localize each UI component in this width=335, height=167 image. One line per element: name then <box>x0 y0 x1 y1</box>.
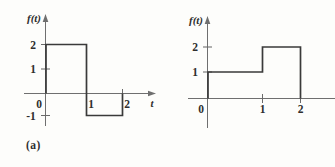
figure-page: 2 1 -1 0 1 2 f(t) t (a) <box>0 0 335 167</box>
y-tick-label-2-a: 2 <box>30 39 36 51</box>
x-axis-arrow-a <box>148 91 156 96</box>
y-axis-arrow-b <box>205 16 211 24</box>
y-tick-label-2-b: 2 <box>192 41 198 53</box>
caption-a: (a) <box>26 139 41 151</box>
x-tick-label-1-b: 1 <box>260 103 266 115</box>
waveform-b <box>208 47 301 99</box>
x-tick-label-0-a: 0 <box>36 98 42 110</box>
chart-panel-b: 2 1 0 1 2 f(t) (b) <box>172 0 335 167</box>
x-axis-label-a: t <box>150 97 154 109</box>
y-axis-label-b: f(t) <box>189 14 203 27</box>
plot-b: 2 1 0 1 2 f(t) <box>172 0 335 167</box>
x-tick-label-2-a: 2 <box>124 98 130 110</box>
chart-panel-a: 2 1 -1 0 1 2 f(t) t (a) <box>0 0 172 167</box>
y-tick-label-1-b: 1 <box>192 66 198 78</box>
y-tick-label-1-a: 1 <box>30 63 36 75</box>
x-tick-label-0-b: 0 <box>198 103 204 115</box>
y-tick-label-neg1-a: -1 <box>26 110 36 122</box>
y-axis-arrow-a <box>43 14 49 22</box>
x-tick-label-2-b: 2 <box>298 103 304 115</box>
y-axis-label-a: f(t) <box>27 12 41 25</box>
x-tick-label-1-a: 1 <box>88 98 94 110</box>
waveform-a <box>46 45 123 116</box>
